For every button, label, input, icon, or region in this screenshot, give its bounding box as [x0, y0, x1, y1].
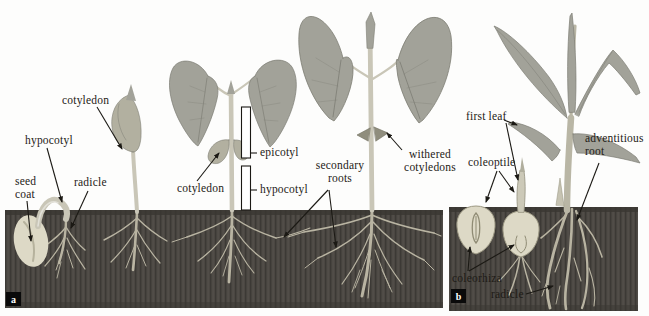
label-hypocotyl-plant: hypocotyl [260, 183, 308, 196]
figure-seed-germination: cotyledon hypocotyl seed coat radicle ep… [0, 0, 649, 316]
panel-letter-b: b [451, 289, 466, 303]
label-hypocotyl-seedling: hypocotyl [25, 134, 73, 147]
label-epicotyl: epicotyl [260, 146, 299, 159]
figure-artwork [0, 0, 649, 316]
label-adventitious-root: adventitious root [585, 132, 647, 158]
label-coleoptile: coleoptile [468, 156, 515, 169]
label-secondary-roots: secondary roots [308, 159, 372, 185]
label-radicle-b: radicle [491, 288, 524, 301]
label-cotyledon-seedling: cotyledon [62, 94, 109, 107]
label-coleorhiza: coleorhiza [452, 272, 502, 285]
panel-letter-a: a [6, 292, 21, 306]
label-cotyledon-plant: cotyledon [177, 182, 224, 195]
label-seed-coat: seed coat [15, 175, 49, 201]
label-radicle-a: radicle [74, 176, 107, 189]
label-withered-cotyledons: withered cotyledons [394, 148, 466, 174]
label-first-leaf: first leaf [466, 110, 507, 123]
hypocotyl-bracket [242, 166, 258, 210]
soil-panel-a [5, 210, 443, 308]
